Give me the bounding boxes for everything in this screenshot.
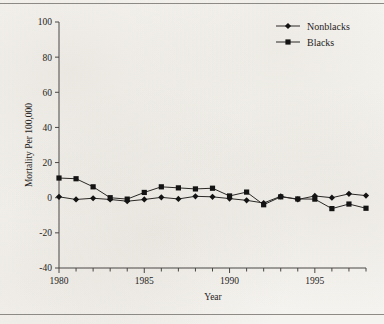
data-point-blacks-1992 (261, 202, 266, 207)
data-point-nonblacks-1981 (73, 196, 79, 202)
data-point-blacks-1985 (142, 190, 147, 195)
data-point-nonblacks-1997 (346, 191, 352, 197)
mortality-line-chart-figure: -40-20020406080100 1980198519901995 Mort… (0, 0, 384, 324)
x-tick-label-1985: 1985 (135, 276, 154, 286)
y-axis-tick-labels: -40-20020406080100 (38, 17, 53, 273)
data-point-nonblacks-1986 (158, 194, 164, 200)
data-point-blacks-1991 (244, 189, 249, 194)
x-tick-label-1995: 1995 (305, 276, 324, 286)
data-point-blacks-1986 (159, 184, 164, 189)
data-point-blacks-1994 (295, 196, 300, 201)
data-point-blacks-1984 (125, 197, 130, 202)
y-tick-label-80: 80 (43, 53, 53, 63)
series-line-blacks (59, 178, 366, 209)
data-point-nonblacks-1988 (192, 193, 198, 199)
data-point-nonblacks-1991 (244, 197, 250, 203)
legend-item-blacks: Blacks (276, 37, 334, 48)
data-point-blacks-1997 (346, 201, 351, 206)
legend-label-blacks: Blacks (307, 37, 334, 48)
data-point-nonblacks-1998 (363, 193, 369, 199)
chart-canvas: -40-20020406080100 1980198519901995 Mort… (0, 0, 384, 324)
chart-legend: NonblacksBlacks (276, 21, 350, 48)
data-point-blacks-1981 (73, 176, 78, 181)
y-axis-title: Mortality Per 100,000 (24, 103, 34, 187)
x-axis-tick-labels: 1980198519901995 (50, 276, 325, 286)
x-tick-label-1990: 1990 (220, 276, 239, 286)
data-point-nonblacks-1987 (175, 196, 181, 202)
legend-diamond-marker (285, 23, 291, 29)
x-axis-ticks (59, 268, 366, 273)
y-tick-label-60: 60 (43, 88, 53, 98)
data-series-layer (56, 175, 369, 211)
data-point-blacks-1982 (91, 184, 96, 189)
data-point-blacks-1990 (227, 193, 232, 198)
legend-square-marker (285, 39, 290, 44)
y-tick-label-40: 40 (43, 123, 53, 133)
y-tick-label--40: -40 (39, 263, 52, 273)
y-tick-label-100: 100 (38, 17, 53, 27)
data-point-nonblacks-1985 (141, 196, 147, 202)
data-point-blacks-1995 (312, 197, 317, 202)
data-point-nonblacks-1996 (329, 195, 335, 201)
legend-item-nonblacks: Nonblacks (276, 21, 350, 32)
data-point-blacks-1988 (193, 186, 198, 191)
data-point-blacks-1989 (210, 186, 215, 191)
y-tick-label-20: 20 (43, 158, 53, 168)
data-point-nonblacks-1989 (209, 194, 215, 200)
x-tick-label-1980: 1980 (50, 276, 69, 286)
data-point-blacks-1987 (176, 185, 181, 190)
series-blacks (56, 175, 368, 211)
data-point-blacks-1993 (278, 194, 283, 199)
data-point-nonblacks-1980 (56, 194, 62, 200)
data-point-blacks-1998 (363, 206, 368, 211)
x-axis-title: Year (204, 292, 222, 302)
legend-label-nonblacks: Nonblacks (307, 21, 350, 32)
data-point-blacks-1996 (329, 206, 334, 211)
data-point-blacks-1980 (56, 175, 61, 180)
y-tick-label--20: -20 (39, 228, 52, 238)
y-axis-ticks (55, 22, 59, 268)
y-tick-label-0: 0 (47, 193, 52, 203)
data-point-nonblacks-1982 (90, 195, 96, 201)
data-point-blacks-1983 (108, 195, 113, 200)
